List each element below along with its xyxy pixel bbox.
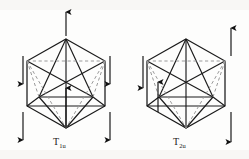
vibration-diagram xyxy=(0,0,249,159)
mode-label-t2u-sub: 2u xyxy=(179,142,186,149)
mode-label-t2u: T2u xyxy=(173,136,186,149)
mode-label-t1u-sub: 1u xyxy=(59,142,66,149)
panel-right-arrows xyxy=(143,28,231,142)
right-solid-edges xyxy=(147,39,225,128)
panel-right-icosahedron xyxy=(147,39,225,128)
mode-label-t1u: T1u xyxy=(53,136,66,149)
figure-root: T1u T2u xyxy=(0,0,249,159)
